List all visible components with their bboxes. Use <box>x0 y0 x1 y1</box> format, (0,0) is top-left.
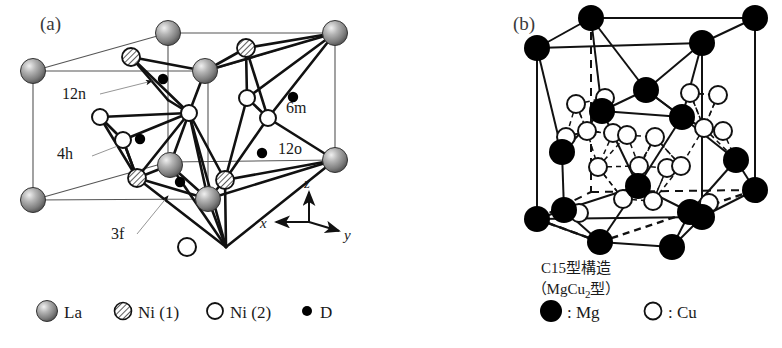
d-atom <box>135 134 145 144</box>
ni2-atom <box>92 109 108 125</box>
legend-b: : Mg : Cu <box>540 300 697 322</box>
legend-a: La Ni (1) Ni (2) D <box>37 301 333 323</box>
mg-atom <box>689 204 715 230</box>
legend-la-label: La <box>64 303 82 322</box>
cu-atom <box>646 128 664 146</box>
mg-atom <box>551 197 577 223</box>
mg-atom <box>524 35 550 61</box>
legend-ni2-icon <box>207 303 223 319</box>
site-label-3f: 3f <box>111 225 125 242</box>
la-atom <box>158 153 183 178</box>
ni1-atom <box>122 48 140 66</box>
cu-atom <box>695 119 713 137</box>
cu-atom <box>709 86 727 104</box>
mg-atom <box>578 5 604 31</box>
ni1-atom <box>216 171 234 189</box>
mg-atom <box>587 229 613 255</box>
legend-mg-icon <box>540 300 562 322</box>
mg-atom <box>723 147 749 173</box>
caption-open: （MgCu <box>532 281 586 297</box>
axis-label-x: x <box>259 215 267 231</box>
mg-atom <box>742 177 768 203</box>
site-label-12o: 12o <box>278 140 302 157</box>
d-atom <box>175 177 185 187</box>
cu-atom <box>578 122 596 140</box>
legend-mg-label: : Mg <box>567 303 600 322</box>
la-atom <box>193 59 218 84</box>
d-atom <box>257 148 267 158</box>
mg-atom <box>659 234 685 260</box>
ni2-atom <box>181 105 197 121</box>
panel-b-label: (b) <box>513 13 535 35</box>
panel-a-svg: 12n 6m 4h 12o 3f z x y (a) La Ni (1) Ni … <box>0 0 391 348</box>
cu-atom <box>672 157 690 175</box>
mg-atom <box>524 206 550 232</box>
cu-atom <box>714 122 732 140</box>
ni2-atom <box>239 90 255 106</box>
legend-cu-label: : Cu <box>668 303 697 322</box>
ni2-atom <box>115 132 131 148</box>
la-atom <box>323 148 348 173</box>
legend-d-label: D <box>320 303 332 322</box>
la-atom <box>196 187 221 212</box>
axis-triad <box>276 192 339 231</box>
cu-atoms-b <box>557 84 732 222</box>
axis-label-z: z <box>303 175 310 191</box>
la-atom <box>156 21 181 46</box>
mg-atom <box>689 30 715 56</box>
mg-atom <box>549 139 575 165</box>
axis-label-y: y <box>342 227 351 243</box>
panel-b-svg: (b) C15型構造 （MgCu2型） : Mg : Cu <box>391 0 782 348</box>
legend-ni1-icon <box>115 303 132 320</box>
caption-line-1: C15型構造 <box>541 260 611 276</box>
mg-atom <box>625 173 651 199</box>
legend-la-icon <box>37 301 58 322</box>
mg-atom <box>633 77 659 103</box>
legend-ni1-label: Ni (1) <box>138 303 179 322</box>
leader-12n <box>100 81 152 94</box>
cu-atom <box>567 95 585 113</box>
legend-ni2-label: Ni (2) <box>230 303 271 322</box>
caption-line-2: （MgCu2型） <box>532 281 621 300</box>
mg-atom <box>742 5 768 31</box>
cu-atom <box>618 126 636 144</box>
cu-atom <box>681 84 699 102</box>
la-atom <box>323 21 348 46</box>
mg-atom <box>589 98 615 124</box>
legend-d-icon <box>302 306 312 316</box>
cu-atom <box>630 157 648 175</box>
ni2-atom <box>260 110 276 126</box>
ni2-atom <box>178 238 196 256</box>
ni1-atom <box>237 39 255 57</box>
mg-atom <box>669 104 695 130</box>
legend-cu-icon <box>645 303 662 320</box>
cu-atom <box>589 158 607 176</box>
site-label-4h: 4h <box>57 145 73 162</box>
figure-container: 12n 6m 4h 12o 3f z x y (a) La Ni (1) Ni … <box>0 0 782 348</box>
panel-a-label: (a) <box>40 13 61 35</box>
axis-y-arrow <box>309 222 339 231</box>
caption-close: 型） <box>590 281 620 297</box>
site-label-12n: 12n <box>62 85 86 102</box>
la-atom <box>21 188 46 213</box>
la-atom <box>21 59 46 84</box>
leader-3f <box>137 196 168 234</box>
d-atom <box>158 74 168 84</box>
ni1-atom <box>128 169 146 187</box>
site-label-6m: 6m <box>286 99 307 116</box>
